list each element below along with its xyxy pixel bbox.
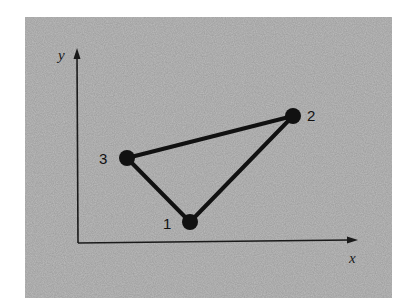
y-axis-label: y [56, 47, 65, 63]
x-axis-label: x [348, 250, 356, 266]
vertex-label-1: 1 [163, 215, 171, 232]
vertex-label-2: 2 [307, 107, 315, 124]
vertex-3 [119, 150, 135, 166]
halftone-texture [25, 17, 392, 298]
vertex-label-3: 3 [99, 150, 107, 167]
vertex-1 [182, 214, 198, 230]
vertex-2 [285, 108, 301, 124]
triangle-diagram: y x 123 [0, 0, 409, 306]
y-axis [77, 56, 78, 243]
